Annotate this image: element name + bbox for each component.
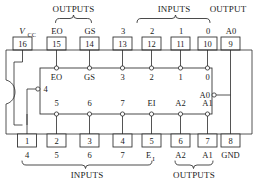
group-label-top-output: OUTPUT <box>210 4 247 14</box>
pin-number-8: 8 <box>228 136 232 146</box>
inner-right-terminal-a0: A0 <box>200 90 231 100</box>
bubble-ei <box>149 112 153 116</box>
pin-1-outer-label: 4 <box>25 150 30 160</box>
inner-label-in2: 2 <box>149 72 153 82</box>
pin-9-outer-label: A0 <box>226 26 236 36</box>
pin-number-1: 1 <box>25 136 29 146</box>
inner-label-in5: 5 <box>54 98 58 108</box>
pin-number-14: 14 <box>85 39 94 49</box>
group-label-top-outputs: OUTPUTS <box>53 4 95 14</box>
pin-number-3: 3 <box>87 136 91 146</box>
pin-13-outer-label: 3 <box>121 26 125 36</box>
pinout-svg: OUTPUTS INPUTS OUTPUT V CC EO GS 3 2 1 0… <box>0 0 258 182</box>
pin-16-outer-label: V CC <box>19 26 36 38</box>
inner-label-in6: 6 <box>87 98 91 108</box>
pin-number-13: 13 <box>118 39 127 49</box>
pin-5-outer-label: E I <box>146 150 155 162</box>
pin-2-outer-label: 5 <box>54 150 58 160</box>
pin-12-outer-label: 2 <box>150 26 154 36</box>
bubble-in3 <box>120 66 124 70</box>
pin-number-5: 5 <box>149 136 153 146</box>
group-label-top-inputs: INPUTS <box>158 4 191 14</box>
pin-number-2: 2 <box>54 136 58 146</box>
bubble-in0 <box>205 66 209 70</box>
pin-8-outer-label: GND <box>221 150 239 160</box>
top-pin-boxes: 16 15 14 13 12 11 10 9 <box>13 37 240 50</box>
bubble-in1 <box>178 66 182 70</box>
vcc-v-glyph: V <box>19 26 26 36</box>
pin-number-16: 16 <box>18 39 27 49</box>
bubble-gs <box>87 66 91 70</box>
group-label-bottom-inputs: INPUTS <box>71 170 104 180</box>
pin-number-7: 7 <box>205 136 209 146</box>
bottom-group-braces <box>22 161 213 169</box>
pin-number-9: 9 <box>228 39 232 49</box>
pin-15-outer-label: EO <box>51 26 62 36</box>
bubble-in5 <box>54 112 58 116</box>
pin-3-outer-label: 6 <box>87 150 91 160</box>
bottom-pin-boxes: 1 2 3 4 5 6 7 8 <box>18 134 241 147</box>
pin-number-6: 6 <box>178 136 182 146</box>
inner-label-in3: 3 <box>120 72 124 82</box>
brace-top-outputs <box>56 15 92 23</box>
brace-bottom-inputs <box>22 161 152 169</box>
bubble-a1 <box>205 112 209 116</box>
inner-logic-box <box>40 68 212 114</box>
pin-4-outer-label: 7 <box>120 150 124 160</box>
pin-number-15: 15 <box>52 39 61 49</box>
bubble-in2 <box>149 66 153 70</box>
inner-label-in7: 7 <box>120 98 124 108</box>
top-group-braces <box>56 15 211 23</box>
bubble-in4 <box>36 87 40 91</box>
pin-number-12: 12 <box>147 39 156 49</box>
pin-number-11: 11 <box>176 39 184 49</box>
pinout-diagram-canvas: OUTPUTS INPUTS OUTPUT V CC EO GS 3 2 1 0… <box>0 0 258 182</box>
bubble-eo <box>54 66 58 70</box>
inner-label-ei: EI <box>147 98 155 108</box>
pin-7-outer-label: A1 <box>202 150 212 160</box>
ei-subscript: I <box>153 155 155 162</box>
bubble-in6 <box>87 112 91 116</box>
inner-label-eo: EO <box>51 72 62 82</box>
brace-bottom-outputs <box>175 161 213 169</box>
pin-number-10: 10 <box>203 39 212 49</box>
top-pin-outer-labels: V CC EO GS 3 2 1 0 A0 <box>19 26 236 38</box>
inner-label-in1: 1 <box>178 72 182 82</box>
bottom-pin-outer-labels: 4 5 6 7 E I A2 A1 GND <box>25 150 240 162</box>
pin-11-outer-label: 1 <box>179 26 183 36</box>
bubble-a0 <box>212 93 216 97</box>
brace-top-inputs <box>137 15 210 23</box>
bubble-a2 <box>178 112 182 116</box>
pin-6-outer-label: A2 <box>175 150 185 160</box>
ei-e-glyph: E <box>146 150 151 160</box>
route-in4-to-pin1 <box>27 89 36 125</box>
pin-10-outer-label: 0 <box>206 26 210 36</box>
group-label-bottom-outputs: OUTPUTS <box>173 170 215 180</box>
inner-label-a2: A2 <box>175 98 185 108</box>
inner-label-in0: 0 <box>205 72 209 82</box>
pin-14-outer-label: GS <box>85 26 96 36</box>
vcc-subscript: CC <box>28 31 36 38</box>
inner-label-a0: A0 <box>200 90 210 100</box>
inner-label-gs: GS <box>84 72 95 82</box>
bubble-in7 <box>120 112 124 116</box>
